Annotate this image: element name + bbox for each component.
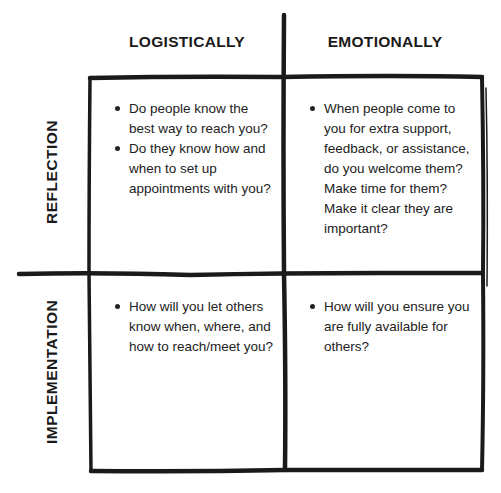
list-item: How will you ensure you are fully availa… <box>310 297 480 357</box>
row-label-implementation: IMPLEMENTATION <box>43 304 61 444</box>
list-item: How will you let others know when, where… <box>115 297 280 357</box>
bullet-icon <box>115 106 120 111</box>
right-border-double <box>486 88 487 286</box>
cell-reflection-logistically: Do people know the best way to reach you… <box>115 99 275 199</box>
bullet-icon <box>115 304 120 309</box>
list-item: Do they know how and when to set up appo… <box>115 139 275 199</box>
row-label-reflection: REFLECTION <box>43 124 61 224</box>
bullet-text: When people come to you for extra suppor… <box>324 101 470 236</box>
bullet-text: How will you let others know when, where… <box>129 299 273 354</box>
grid-lines <box>0 0 501 493</box>
list-item: Do people know the best way to reach you… <box>115 99 275 139</box>
cell-reflection-emotionally: When people come to you for extra suppor… <box>310 99 480 239</box>
cell-implementation-emotionally: How will you ensure you are fully availa… <box>310 297 480 357</box>
vertical-divider <box>284 15 286 470</box>
bullet-list: Do people know the best way to reach you… <box>115 99 275 199</box>
list-item: When people come to you for extra suppor… <box>310 99 480 239</box>
bullet-text: How will you ensure you are fully availa… <box>324 299 470 354</box>
column-header-logistically: LOGISTICALLY <box>112 33 262 51</box>
bullet-icon <box>310 106 315 111</box>
bottom-border <box>91 470 482 471</box>
column-header-emotionally: EMOTIONALLY <box>300 33 470 51</box>
bullet-list: How will you let others know when, where… <box>115 297 280 357</box>
bullet-text: Do they know how and when to set up appo… <box>129 141 271 196</box>
bullet-icon <box>115 146 120 151</box>
matrix-diagram: LOGISTICALLY EMOTIONALLY REFLECTION IMPL… <box>0 0 501 493</box>
top-border <box>90 76 482 78</box>
bullet-list: When people come to you for extra suppor… <box>310 99 480 239</box>
bullet-list: How will you ensure you are fully availa… <box>310 297 480 357</box>
cell-implementation-logistically: How will you let others know when, where… <box>115 297 280 357</box>
bullet-text: Do people know the best way to reach you… <box>129 101 268 136</box>
horizontal-divider <box>19 273 481 275</box>
bullet-icon <box>310 304 315 309</box>
